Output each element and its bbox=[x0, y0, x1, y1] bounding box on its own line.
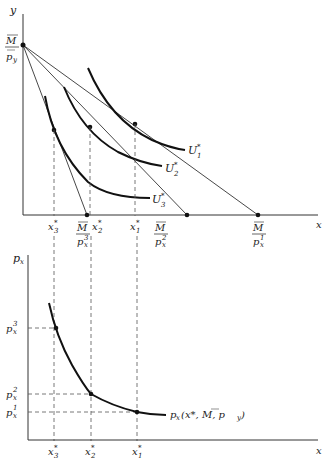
svg-text:2: 2 bbox=[173, 170, 179, 178]
svg-text:3: 3 bbox=[161, 201, 166, 209]
budget-line-2 bbox=[23, 45, 187, 215]
indifference-curve-u1 bbox=[88, 68, 185, 150]
budget-intercept-label-1: M p x 1 bbox=[252, 222, 266, 249]
price-tick-3: p x 3 bbox=[6, 320, 18, 336]
svg-text:(x*, M, p: (x*, M, p bbox=[181, 409, 225, 420]
svg-text:1: 1 bbox=[197, 152, 201, 160]
vertical-guides bbox=[54, 124, 137, 441]
svg-text:x: x bbox=[176, 414, 180, 422]
svg-text:3: 3 bbox=[84, 234, 89, 242]
demand-point-3 bbox=[54, 326, 59, 331]
bottom-x-tick-3: x * 3 bbox=[48, 444, 59, 460]
svg-text:2: 2 bbox=[97, 227, 103, 235]
indifference-curve-u3 bbox=[45, 96, 150, 198]
budget-intercept-label-3: M p x 3 bbox=[76, 222, 90, 249]
top-x-axis-label: x bbox=[316, 219, 322, 230]
svg-text:x: x bbox=[13, 412, 17, 420]
svg-text:M: M bbox=[76, 222, 88, 233]
demand-point-2 bbox=[89, 392, 94, 397]
price-tick-1: p x 1 bbox=[6, 404, 17, 420]
top-x-tick-1: x * 1 bbox=[130, 219, 140, 235]
y-intercept-label: M p y bbox=[5, 35, 19, 64]
svg-text:2: 2 bbox=[161, 234, 167, 242]
budget-intercept-point-2 bbox=[185, 213, 190, 218]
svg-text:1: 1 bbox=[138, 452, 142, 460]
svg-text:*: * bbox=[54, 444, 58, 452]
demand-point-1 bbox=[135, 410, 140, 415]
budget-intercept-label-2: M p x 2 bbox=[154, 222, 168, 249]
svg-text:x: x bbox=[84, 241, 88, 249]
svg-text:p: p bbox=[6, 323, 13, 334]
top-panel: y x M p y U * 1 bbox=[5, 4, 322, 249]
svg-text:x: x bbox=[260, 241, 264, 249]
svg-text:2: 2 bbox=[90, 452, 96, 460]
svg-text:*: * bbox=[197, 143, 201, 151]
svg-text:*: * bbox=[91, 444, 95, 452]
label-u3: U * 3 bbox=[152, 192, 166, 209]
svg-text:*: * bbox=[54, 219, 58, 227]
svg-text:3: 3 bbox=[13, 320, 18, 328]
svg-text:p: p bbox=[253, 236, 260, 247]
svg-text:M: M bbox=[154, 222, 166, 233]
demand-curve-label: p x (x*, M, p y ) bbox=[170, 409, 245, 422]
svg-text:M: M bbox=[5, 35, 17, 46]
budget-intercept-point-3 bbox=[85, 213, 90, 218]
svg-text:p: p bbox=[13, 252, 20, 265]
svg-text:2: 2 bbox=[12, 386, 18, 394]
svg-text:): ) bbox=[240, 409, 245, 420]
svg-text:p: p bbox=[6, 51, 13, 62]
svg-text:*: * bbox=[136, 219, 140, 227]
svg-text:x: x bbox=[13, 328, 17, 336]
svg-text:1: 1 bbox=[260, 234, 264, 242]
top-x-tick-2: x * 2 bbox=[92, 219, 103, 235]
budget-intercept-point-1 bbox=[256, 213, 261, 218]
svg-text:M: M bbox=[252, 222, 264, 233]
svg-text:3: 3 bbox=[54, 452, 59, 460]
svg-text:p: p bbox=[77, 236, 84, 247]
svg-text:x: x bbox=[20, 258, 24, 266]
price-tick-2: p x 2 bbox=[6, 386, 18, 402]
bottom-x-tick-1: x * 1 bbox=[132, 444, 142, 460]
top-y-axis-label: y bbox=[9, 4, 17, 17]
budget-line-1 bbox=[23, 45, 258, 215]
svg-text:*: * bbox=[161, 192, 165, 200]
y-intercept-point bbox=[21, 43, 26, 48]
label-u2: U * 2 bbox=[165, 161, 179, 178]
bottom-x-tick-2: x * 2 bbox=[85, 444, 96, 460]
svg-text:x: x bbox=[13, 394, 17, 402]
bottom-y-axis-label: p x bbox=[13, 252, 24, 266]
svg-text:*: * bbox=[98, 219, 102, 227]
label-u1: U * 1 bbox=[188, 143, 201, 160]
svg-text:p: p bbox=[155, 236, 162, 247]
price-consumption-diagram: y x M p y U * 1 bbox=[0, 0, 333, 463]
svg-text:3: 3 bbox=[54, 227, 59, 235]
demand-curve bbox=[49, 303, 166, 415]
bottom-panel: p x x p x 3 p x 2 p x 1 p bbox=[6, 252, 322, 460]
svg-text:1: 1 bbox=[136, 227, 140, 235]
svg-text:p: p bbox=[6, 407, 13, 418]
svg-text:y: y bbox=[12, 56, 18, 64]
bottom-x-axis-label: x bbox=[316, 445, 322, 456]
svg-text:*: * bbox=[174, 161, 178, 169]
indifference-curve-u2 bbox=[64, 87, 162, 166]
svg-text:p: p bbox=[6, 389, 13, 400]
svg-text:*: * bbox=[138, 444, 142, 452]
svg-text:1: 1 bbox=[13, 404, 17, 412]
top-x-tick-3: x * 3 bbox=[48, 219, 59, 235]
svg-text:x: x bbox=[162, 241, 166, 249]
